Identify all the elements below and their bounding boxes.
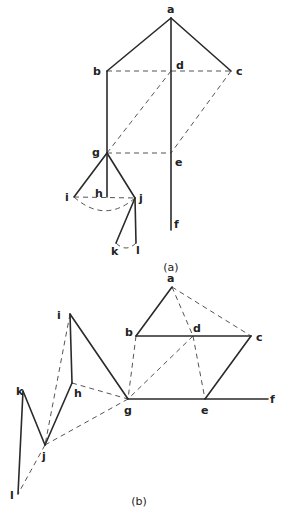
solid-edge-i-h: [70, 314, 72, 383]
panel-a-caption: (a): [163, 261, 178, 274]
panel-a-graph: abdcgefhijkl: [65, 3, 243, 258]
node-label-k: k: [111, 245, 119, 258]
node-label-l: l: [10, 489, 14, 502]
solid-edge-k-l: [18, 391, 23, 494]
node-label-f: f: [270, 393, 275, 406]
node-label-j: j: [41, 450, 46, 463]
dashed-edge-b-g: [128, 336, 136, 399]
node-label-i: i: [65, 191, 69, 204]
solid-edge-j-k: [23, 391, 45, 445]
node-label-i: i: [57, 309, 61, 322]
solid-edge-g-j: [107, 153, 135, 198]
node-label-d: d: [193, 322, 201, 335]
dashed-edge-j-l: [18, 445, 45, 494]
solid-edge-c-e: [205, 336, 251, 399]
node-label-j: j: [138, 192, 143, 205]
node-label-e: e: [175, 156, 182, 169]
panel-b-caption: (b): [131, 495, 147, 508]
panel-b-graph: abdcgefihkjl: [10, 272, 275, 502]
node-label-g: g: [124, 404, 132, 417]
dashed-edge-i-j: [45, 314, 70, 445]
dashed-curve-i-j: [74, 197, 135, 211]
dashed-edge-c-e: [171, 71, 231, 153]
solid-edge-a-b: [136, 287, 172, 336]
node-label-h: h: [95, 187, 103, 200]
graph-diagram: abdcgefhijkl abdcgefihkjl (a) (b): [0, 0, 283, 521]
solid-edge-j-l: [135, 198, 136, 243]
solid-edge-a-b: [107, 18, 171, 71]
node-label-l: l: [136, 244, 140, 257]
node-label-d: d: [176, 59, 184, 72]
dashed-edge-j-g: [45, 399, 128, 445]
node-label-k: k: [16, 385, 24, 398]
dashed-edge-a-c: [172, 287, 251, 336]
node-label-b: b: [125, 326, 133, 339]
node-label-a: a: [167, 3, 174, 16]
dashed-edge-d-g: [107, 71, 171, 153]
node-label-e: e: [201, 404, 208, 417]
node-label-c: c: [256, 331, 263, 344]
dashed-edge-d-g: [128, 336, 193, 399]
dashed-edge-d-e: [193, 336, 205, 399]
dashed-edge-i-j: [74, 197, 135, 198]
node-label-g: g: [92, 146, 100, 159]
solid-edge-h-j: [45, 383, 72, 445]
dashed-curve-k-l: [116, 243, 136, 248]
node-label-c: c: [236, 65, 243, 78]
node-label-f: f: [174, 218, 179, 231]
node-label-h: h: [74, 387, 82, 400]
node-label-b: b: [93, 65, 101, 78]
dashed-edge-a-d: [172, 287, 193, 336]
